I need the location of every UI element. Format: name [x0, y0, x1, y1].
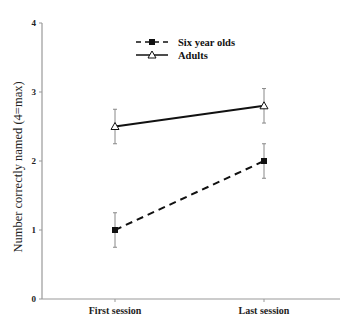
series-group	[111, 89, 268, 248]
legend: Six year oldsAdults	[136, 37, 235, 61]
y-axis-label: Number correctly named (4=max)	[11, 81, 25, 252]
y-tick-label: 3	[32, 87, 37, 97]
series-six-year-olds	[112, 144, 267, 248]
line-chart: 01234 First sessionLast session Number c…	[0, 0, 354, 332]
y-tick-label: 2	[32, 156, 37, 166]
y-axis-label-group: Number correctly named (4=max)	[11, 81, 25, 252]
legend-square-icon	[149, 39, 155, 45]
y-tick-label: 0	[32, 294, 37, 304]
legend-label: Adults	[178, 50, 208, 61]
square-marker-icon	[261, 158, 267, 164]
series-adults	[111, 89, 268, 144]
legend-label: Six year olds	[178, 37, 235, 48]
series-line	[115, 106, 264, 127]
series-line	[115, 161, 264, 230]
x-category-label: Last session	[239, 305, 290, 316]
y-tick-label: 1	[32, 225, 37, 235]
axes	[42, 23, 340, 299]
y-axis-ticks: 01234	[32, 18, 43, 304]
x-category-label: First session	[89, 305, 142, 316]
y-tick-label: 4	[32, 18, 37, 28]
square-marker-icon	[112, 227, 118, 233]
x-axis-categories: First sessionLast session	[89, 299, 290, 316]
